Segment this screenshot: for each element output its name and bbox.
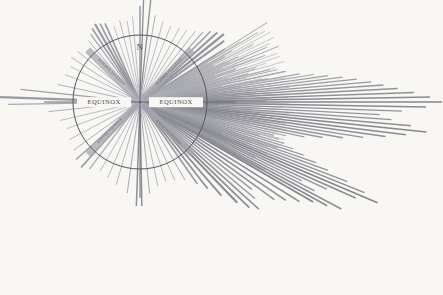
equinox-west-label-group: EQUINOX (77, 97, 131, 107)
north-label: N (137, 42, 144, 52)
ray-compass-svg: N EQUINOX EQUINOX SUMMER SOLSTICE SUMMER… (0, 0, 443, 295)
equinox-east-label: EQUINOX (159, 98, 192, 105)
diagram-canvas: N EQUINOX EQUINOX SUMMER SOLSTICE SUMMER… (0, 0, 443, 295)
equinox-east-label-group: EQUINOX (149, 97, 203, 107)
ray-group (0, 0, 442, 209)
equinox-west-label: EQUINOX (87, 98, 120, 105)
